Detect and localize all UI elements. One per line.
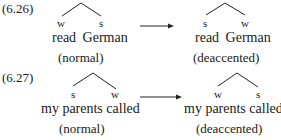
node-label: s — [99, 17, 103, 29]
example-number: (6.27) — [2, 70, 33, 86]
node-label: s — [203, 17, 207, 29]
label-normal: (normal) — [59, 121, 104, 137]
node-label: s — [71, 88, 75, 100]
phrase: read German — [52, 30, 128, 46]
node-label: w — [111, 88, 119, 100]
node-label: s — [256, 88, 260, 100]
label-deaccented: (deaccented) — [196, 121, 262, 137]
tree-branches — [0, 0, 281, 140]
node-label: w — [241, 17, 249, 29]
phrase: my parents called — [41, 101, 140, 117]
phrase: my parents called — [184, 101, 281, 117]
example-number: (6.26) — [2, 1, 33, 17]
label-normal: (normal) — [58, 50, 103, 66]
node-label: w — [214, 88, 222, 100]
node-label: w — [57, 17, 65, 29]
label-deaccented: (deaccented) — [193, 50, 259, 66]
phrase: read German — [195, 30, 271, 46]
